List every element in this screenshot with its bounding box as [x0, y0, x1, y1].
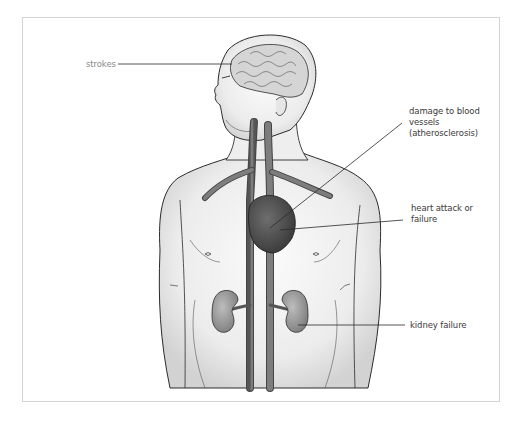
- label-damage-line3: (atherosclerosis): [409, 128, 504, 139]
- label-strokes: strokes: [86, 59, 116, 70]
- label-damage-line2: vessels: [409, 117, 504, 128]
- label-kidney-failure: kidney failure: [410, 320, 466, 331]
- label-heart-attack: heart attack or failure: [411, 203, 501, 225]
- label-kidney-text: kidney failure: [410, 320, 466, 330]
- label-heart-line1: heart attack or: [411, 203, 501, 214]
- label-damage-line1: damage to blood: [409, 106, 504, 117]
- label-atherosclerosis: damage to blood vessels (atherosclerosis…: [409, 106, 504, 139]
- label-heart-line2: failure: [411, 214, 501, 225]
- label-strokes-text: strokes: [86, 59, 116, 69]
